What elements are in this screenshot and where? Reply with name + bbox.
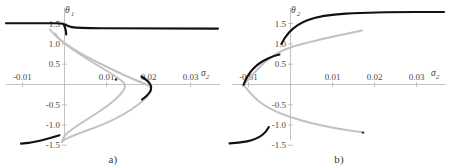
curve-unstable-inner-a — [50, 30, 125, 142]
isolated-point-a — [115, 78, 117, 80]
xtick-label-2: 0.02 — [367, 72, 383, 82]
ytick-label-5: -1.5 — [272, 140, 287, 150]
xtick-label-3: 0.03 — [183, 72, 199, 82]
panel-a: -0.01 0.01 0.02 0.03 1.5 1.0 0.5 -0.5 -1… — [0, 0, 226, 167]
isolated-point-b — [362, 131, 364, 133]
curve-stable-upper-b — [281, 12, 444, 44]
y-axis-label: θ — [65, 5, 70, 15]
curve-unstable-upper-b — [244, 30, 363, 85]
ytick-label-2: 0.5 — [49, 59, 61, 69]
xtick-label-3: 0.03 — [409, 72, 425, 82]
panel-a-caption: a) — [0, 153, 226, 165]
panel-b-caption: b) — [226, 153, 452, 165]
curve-stable-lower-b — [230, 127, 269, 143]
ytick-label-4: -1.0 — [272, 120, 287, 130]
xtick-label-1: 0.01 — [325, 72, 341, 82]
bifurcation-figure: -0.01 0.01 0.02 0.03 1.5 1.0 0.5 -0.5 -1… — [0, 0, 452, 167]
xtick-label-0: -0.01 — [13, 72, 32, 82]
curve-unstable-outer-a — [55, 34, 151, 142]
x-axis-label-subscript: 2 — [436, 73, 440, 80]
ytick-label-2: 0.5 — [275, 59, 287, 69]
ytick-label-4: -1.0 — [46, 120, 61, 130]
panel-a-axis-titles: θ 1 σ 2 — [65, 5, 210, 80]
panel-a-plot: -0.01 0.01 0.02 0.03 1.5 1.0 0.5 -0.5 -1… — [0, 0, 226, 167]
curve-unstable-lower-b — [244, 85, 363, 132]
curve-stable-upper-a — [6, 23, 218, 28]
panel-b: -0.01 0.01 0.02 0.03 1.5 1.0 0.5 -0.5 -1… — [226, 0, 452, 167]
ytick-label-1: 1.0 — [49, 39, 61, 49]
y-axis-label-subscript: 2 — [297, 10, 301, 17]
ytick-label-3: -0.5 — [46, 100, 61, 110]
ytick-label-5: -1.5 — [46, 140, 61, 150]
panel-b-axis-titles: θ 2 σ 2 — [291, 5, 440, 80]
y-axis-label-subscript: 1 — [71, 10, 74, 17]
y-axis-label: θ — [291, 5, 296, 15]
x-axis-label-subscript: 2 — [206, 73, 210, 80]
ytick-label-0: 1.5 — [275, 19, 287, 29]
panel-b-plot: -0.01 0.01 0.02 0.03 1.5 1.0 0.5 -0.5 -1… — [226, 0, 452, 167]
ytick-label-3: -0.5 — [272, 100, 287, 110]
panel-a-curves — [6, 23, 218, 143]
